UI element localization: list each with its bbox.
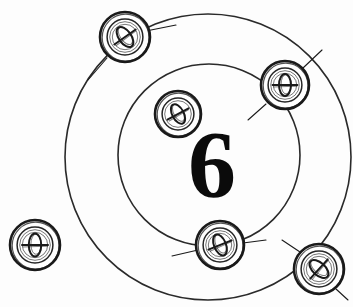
screw-inner-bottom bbox=[196, 221, 244, 269]
center-number-label: 6 bbox=[188, 117, 236, 213]
screw-lower-right bbox=[294, 244, 344, 294]
screw-left-detached bbox=[10, 220, 60, 270]
drawing-canvas bbox=[0, 0, 353, 307]
technical-drawing-figure: 6 bbox=[0, 0, 353, 307]
screw-top-left bbox=[100, 12, 150, 62]
screw-upper-right bbox=[261, 61, 309, 109]
